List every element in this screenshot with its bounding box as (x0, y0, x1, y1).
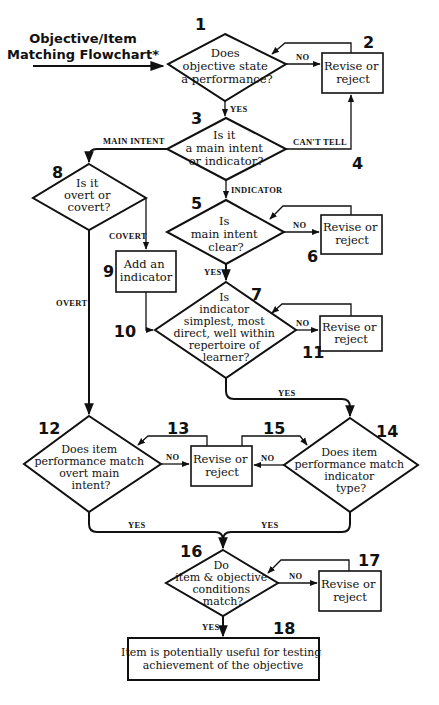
node-9-label: Add an indicator (120, 257, 173, 284)
node-12-number: 12 (38, 419, 60, 438)
node-18-label: Item is potentially useful for testing a… (121, 646, 325, 672)
process-node-9[interactable]: 9 Add an indicator (103, 251, 176, 292)
node-18-number: 18 (273, 619, 295, 638)
edge-label-12-16: YES (128, 520, 145, 530)
node-16-label: Do item & objective conditions match? (175, 559, 271, 608)
edge-12-to-16 (89, 512, 223, 548)
edge-14-to-16 (223, 512, 350, 540)
edge-label-14-13: NO (261, 453, 274, 463)
decision-node-8[interactable]: 8 Is it overt or covert? (33, 163, 146, 230)
decision-node-1[interactable]: 1 Does objective state a performance? (168, 15, 286, 101)
edge-label-8-12: OVERT (56, 298, 87, 308)
edge-label-8-9: COVERT (109, 231, 147, 241)
node-3-number: 3 (191, 109, 202, 128)
node-4-number: 4 (352, 154, 363, 173)
decision-node-3[interactable]: 3 Is it a main intent or indicator? (167, 109, 286, 180)
node-11-number: 11 (302, 343, 324, 362)
edge-label-14-16: YES (261, 520, 278, 530)
node-2-number: 2 (363, 33, 374, 52)
edge-label-3-8: MAIN INTENT (103, 136, 165, 146)
edge-label-1-3: YES (230, 104, 247, 114)
edge-label-5-7: YES (204, 267, 221, 277)
loop-11-to-7 (272, 304, 351, 316)
decision-node-16[interactable]: 16 Do item & objective conditions match? (166, 542, 278, 616)
edge-label-7-11: NO (296, 318, 309, 328)
flowchart-title: Objective/Item Matching Flowchart* (7, 31, 159, 62)
edge-3-to-8 (89, 149, 167, 162)
node-14-number: 14 (376, 422, 398, 441)
node-16-number: 16 (180, 542, 202, 561)
edge-label-3-4: CAN'T TELL (293, 137, 347, 147)
node-9-number: 9 (103, 262, 114, 281)
decision-node-14[interactable]: 14 Does item performance match indicator… (284, 418, 418, 512)
process-node-11[interactable]: 11 Revise or reject (302, 316, 382, 362)
edge-label-1-2: NO (296, 52, 309, 62)
edge-label-3-5: INDICATOR (231, 185, 283, 195)
process-node-6[interactable]: 6 Revise or reject (307, 215, 382, 266)
node-7-number: 7 (251, 285, 262, 304)
edge-9-to-7 (146, 292, 153, 330)
node-1-number: 1 (195, 15, 206, 34)
process-node-2[interactable]: 2 Revise or reject (322, 33, 383, 93)
title-line-2: Matching Flowchart* (7, 47, 159, 62)
decision-node-5[interactable]: 5 Is main intent clear? (167, 194, 284, 264)
node-15-number: 15 (263, 419, 285, 438)
decision-node-7[interactable]: 7 Is indicator simplest, most direct, we… (155, 282, 296, 378)
node-17-number: 17 (358, 551, 380, 570)
edge-label-16-17: NO (289, 571, 302, 581)
node-5-number: 5 (191, 194, 202, 213)
node-10-number: 10 (114, 322, 136, 341)
node-8-number: 8 (52, 163, 63, 182)
title-line-1: Objective/Item (29, 31, 136, 46)
flowchart: Objective/Item Matching Flowchart* NO YE… (0, 0, 439, 705)
edge-label-7-14: YES (278, 388, 295, 398)
node-13-number: 13 (167, 419, 189, 438)
decision-node-12[interactable]: 12 Does item performance match overt mai… (24, 416, 161, 512)
process-node-13[interactable]: 13 Revise or reject (167, 419, 252, 486)
node-6-number: 6 (307, 247, 318, 266)
edge-label-16-18: YES (202, 622, 219, 632)
edge-label-5-6: NO (293, 220, 306, 230)
edge-label-12-13: NO (166, 452, 179, 462)
